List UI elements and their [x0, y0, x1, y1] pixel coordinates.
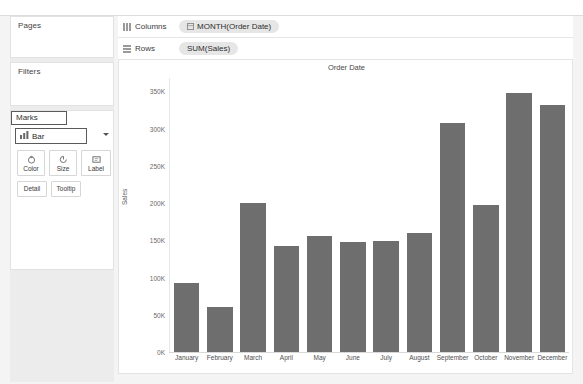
- shelf-area: Columns MONTH(Order Date) Rows: [118, 16, 573, 58]
- x-tick-label[interactable]: December: [536, 354, 569, 361]
- x-axis-labels: JanuaryFebruaryMarchAprilMayJuneJulyAugu…: [170, 354, 569, 372]
- bar-april[interactable]: [274, 246, 299, 352]
- marks-tooltip-label: Tooltip: [57, 185, 76, 193]
- y-tick-label: 150K: [150, 237, 165, 244]
- marks-size-button[interactable]: Size: [49, 150, 77, 176]
- bar-slot: [237, 78, 270, 352]
- bar-slot: [503, 78, 536, 352]
- x-tick-label[interactable]: September: [436, 354, 469, 361]
- rows-grid-icon: [123, 45, 132, 53]
- x-tick-label[interactable]: February: [203, 354, 236, 361]
- bar-january[interactable]: [174, 283, 199, 352]
- x-tick-label[interactable]: January: [170, 354, 203, 361]
- mark-type-box[interactable]: Bar: [15, 128, 87, 144]
- columns-shelf-label: Columns: [135, 22, 179, 31]
- bar-slot: [203, 78, 236, 352]
- bar-plot-area: [170, 78, 569, 352]
- y-tick-label: 350K: [150, 88, 165, 95]
- x-tick-label[interactable]: April: [270, 354, 303, 361]
- top-strip: [0, 0, 583, 16]
- marks-buttons-row-1: Color Size: [17, 150, 111, 176]
- color-palette-icon: [27, 155, 36, 165]
- bar-july[interactable]: [373, 241, 398, 352]
- marks-card: Marks Bar: [10, 110, 114, 270]
- y-tick-label: 250K: [150, 162, 165, 169]
- bar-february[interactable]: [207, 307, 232, 352]
- pill-month-order-date-label: MONTH(Order Date): [197, 22, 271, 31]
- bar-slot: [469, 78, 502, 352]
- x-tick-label[interactable]: August: [403, 354, 436, 361]
- rows-shelf[interactable]: Rows SUM(Sales): [118, 38, 573, 60]
- label-tag-icon: [92, 155, 101, 165]
- columns-grid-icon: [123, 23, 132, 31]
- y-tick-label: 0K: [157, 349, 165, 356]
- x-axis-line: [169, 352, 569, 353]
- x-tick-label[interactable]: November: [503, 354, 536, 361]
- marks-card-title: Marks: [11, 111, 67, 125]
- bar-december[interactable]: [540, 105, 565, 352]
- bar-october[interactable]: [473, 205, 498, 352]
- bar-slot: [270, 78, 303, 352]
- marks-label-button[interactable]: Label: [81, 150, 111, 176]
- left-rail: Pages Filters Marks Bar: [10, 16, 114, 382]
- marks-buttons-row-2: Detail Tooltip: [17, 181, 81, 197]
- pill-sum-sales-label: SUM(Sales): [187, 44, 230, 53]
- bar-chart-icon: [20, 131, 29, 141]
- mark-type-dropdown[interactable]: Bar: [15, 128, 111, 144]
- marks-detail-button[interactable]: Detail: [17, 181, 47, 197]
- columns-shelf[interactable]: Columns MONTH(Order Date): [118, 16, 573, 38]
- bar-slot: [336, 78, 369, 352]
- bar-september[interactable]: [440, 123, 465, 352]
- bar-slot: [170, 78, 203, 352]
- rows-shelf-label: Rows: [135, 44, 179, 53]
- marks-label-label: Label: [88, 165, 104, 173]
- y-tick-label: 300K: [150, 125, 165, 132]
- filters-card[interactable]: Filters: [10, 62, 114, 106]
- bar-slot: [536, 78, 569, 352]
- date-field-icon: [187, 23, 194, 30]
- chevron-down-icon[interactable]: [103, 133, 109, 136]
- y-tick-label: 50K: [153, 311, 165, 318]
- chart-pane: Order Date Sales 0K50K100K150K200K250K30…: [118, 59, 573, 374]
- marks-tooltip-button[interactable]: Tooltip: [51, 181, 81, 197]
- y-tick-label: 200K: [150, 200, 165, 207]
- tableau-worksheet: Pages Filters Marks Bar: [0, 0, 583, 384]
- bar-slot: [303, 78, 336, 352]
- y-axis-ticks: 0K50K100K150K200K250K300K350K: [127, 60, 165, 375]
- chart-title: Order Date: [119, 63, 574, 72]
- bar-slot: [370, 78, 403, 352]
- bar-march[interactable]: [240, 203, 265, 352]
- y-tick-label: 100K: [150, 274, 165, 281]
- marks-color-button[interactable]: Color: [17, 150, 45, 176]
- marks-size-label: Size: [57, 165, 70, 173]
- x-tick-label[interactable]: March: [237, 354, 270, 361]
- size-circle-icon: [59, 155, 68, 165]
- marks-detail-label: Detail: [24, 185, 41, 193]
- bar-slot: [403, 78, 436, 352]
- pill-sum-sales[interactable]: SUM(Sales): [179, 42, 238, 55]
- x-tick-label[interactable]: July: [370, 354, 403, 361]
- x-tick-label[interactable]: May: [303, 354, 336, 361]
- bar-may[interactable]: [307, 236, 332, 352]
- bar-august[interactable]: [407, 233, 432, 352]
- bar-june[interactable]: [340, 242, 365, 352]
- pages-card[interactable]: Pages: [10, 16, 114, 58]
- mark-type-label: Bar: [32, 132, 44, 141]
- pages-card-title: Pages: [11, 17, 113, 30]
- bar-november[interactable]: [506, 93, 531, 352]
- pill-month-order-date[interactable]: MONTH(Order Date): [179, 20, 279, 33]
- bar-slot: [436, 78, 469, 352]
- filters-card-title: Filters: [11, 63, 113, 76]
- x-tick-label[interactable]: October: [469, 354, 502, 361]
- x-tick-label[interactable]: June: [336, 354, 369, 361]
- marks-color-label: Color: [23, 165, 39, 173]
